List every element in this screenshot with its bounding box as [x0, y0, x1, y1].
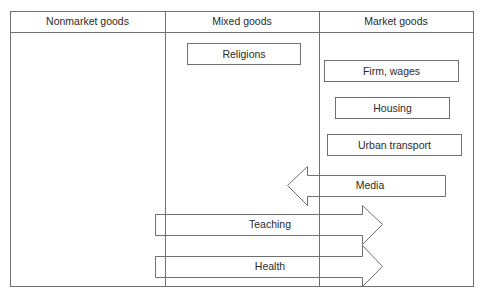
arrow-label-media: Media — [340, 179, 400, 191]
arrow-label-teaching: Teaching — [230, 218, 310, 230]
arrows-layer — [0, 0, 482, 297]
arrow-label-health: Health — [230, 260, 310, 272]
